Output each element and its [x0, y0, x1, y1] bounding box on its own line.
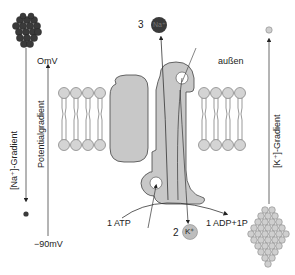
k-ion-cluster-high: [248, 207, 290, 268]
na-ion-low: [23, 211, 28, 216]
k-ion-label: K⁺: [185, 228, 194, 236]
lipid-bilayer-left: [59, 88, 106, 151]
potential-gradient-label: Potentialgradient: [37, 100, 46, 168]
k-count-label: 2: [173, 228, 179, 238]
potential-top-label: OmV: [37, 57, 58, 66]
k-ion-low: [266, 27, 272, 33]
na-count-label: 3: [138, 20, 144, 30]
na-ion-label: Na⁺: [153, 21, 166, 28]
beta-subunit: [110, 75, 148, 162]
k-gradient-label: [K⁺]-Gradient: [273, 114, 282, 168]
atp-hydrolysis-arrow: [122, 203, 226, 218]
potential-bottom-label: −90mV: [34, 240, 63, 249]
na-gradient-label: [Na⁺]-Gradient: [10, 131, 19, 190]
na-ion-cluster-high: [12, 13, 41, 48]
atp-label: 1 ATP: [107, 219, 131, 228]
outside-label: außen: [218, 57, 244, 66]
adp-label: 1 ADP+1P: [206, 219, 248, 228]
lipid-bilayer-right: [199, 88, 246, 151]
